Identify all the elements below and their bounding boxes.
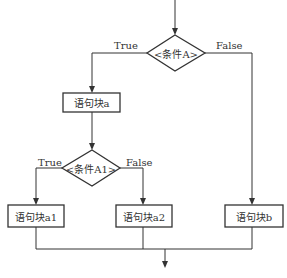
block-a1-label: 语句块a1 [8, 205, 64, 227]
block-a2-label: 语句块a2 [116, 205, 172, 227]
condition-a1-true-label: True [38, 157, 62, 169]
flowchart-lines [0, 0, 287, 278]
condition-a-label: <条件A> [147, 45, 205, 61]
condition-a1-label: <条件A1> [62, 160, 120, 176]
condition-a1-false-label: False [126, 157, 152, 169]
condition-a-true-label: True [114, 40, 138, 52]
block-a-label: 语句块a [63, 93, 120, 112]
block-b-label: 语句块b [225, 205, 283, 227]
condition-a-false-label: False [216, 40, 242, 52]
